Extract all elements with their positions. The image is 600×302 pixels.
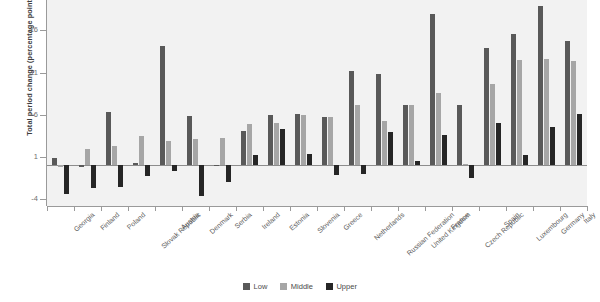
bar-low bbox=[349, 71, 354, 166]
y-axis-tick bbox=[40, 199, 46, 200]
bar-middle bbox=[517, 60, 522, 166]
x-axis-tick bbox=[452, 206, 453, 211]
x-axis-tick-label: Austria bbox=[179, 211, 200, 231]
bar-low bbox=[187, 116, 192, 166]
x-axis-tick-label: Finland bbox=[98, 211, 120, 232]
legend-label: Middle bbox=[291, 283, 313, 291]
x-axis-tick bbox=[587, 206, 588, 211]
x-axis-tick bbox=[155, 206, 156, 211]
chart-figure: -4161116 Total period change (percentage… bbox=[0, 0, 600, 302]
bar-low bbox=[241, 131, 246, 166]
bar-upper bbox=[388, 132, 393, 166]
y-axis-tick bbox=[40, 115, 46, 116]
bar-middle bbox=[274, 123, 279, 165]
bar-upper bbox=[523, 155, 528, 165]
x-axis-tick bbox=[47, 206, 48, 211]
x-axis-tick-label: Georgia bbox=[72, 211, 95, 233]
x-axis-tick-label: Poland bbox=[125, 211, 146, 231]
bar-middle bbox=[139, 136, 144, 166]
legend-label: Low bbox=[254, 283, 268, 291]
bar-upper bbox=[145, 165, 150, 176]
x-axis-tick bbox=[371, 206, 372, 211]
bar-low bbox=[52, 158, 57, 166]
bar-low bbox=[565, 41, 570, 165]
bar-middle bbox=[166, 141, 171, 165]
bar-upper bbox=[334, 165, 339, 174]
bar-middle bbox=[58, 165, 63, 166]
x-axis-tick bbox=[209, 206, 210, 211]
bar-middle bbox=[490, 84, 495, 165]
x-axis-tick bbox=[533, 206, 534, 211]
x-axis-tick bbox=[344, 206, 345, 211]
bar-middle bbox=[355, 105, 360, 166]
bar-low bbox=[511, 34, 516, 166]
bar-low bbox=[430, 14, 435, 165]
bar-low bbox=[457, 105, 462, 166]
x-axis-tick bbox=[317, 206, 318, 211]
bar-middle bbox=[301, 115, 306, 166]
bar-upper bbox=[496, 123, 501, 165]
bar-upper bbox=[361, 165, 366, 173]
bar-low bbox=[214, 165, 219, 166]
x-axis-tick-label: Slovenia bbox=[315, 211, 340, 234]
bar-middle bbox=[544, 59, 549, 165]
x-axis-tick bbox=[425, 206, 426, 211]
x-axis-tick bbox=[398, 206, 399, 211]
bar-upper bbox=[64, 165, 69, 194]
x-axis-tick-label: Netherlands bbox=[372, 211, 405, 241]
bar-upper bbox=[118, 165, 123, 187]
bar-upper bbox=[253, 155, 258, 166]
plot-area bbox=[47, 22, 587, 206]
x-axis-tick bbox=[290, 206, 291, 211]
bar-upper bbox=[199, 165, 204, 195]
bar-upper bbox=[280, 129, 285, 165]
bar-upper bbox=[226, 165, 231, 181]
bar-middle bbox=[85, 149, 90, 165]
bar-low bbox=[538, 6, 543, 166]
x-axis-tick bbox=[128, 206, 129, 211]
x-axis-tick bbox=[560, 206, 561, 211]
bar-middle bbox=[328, 117, 333, 166]
bar-low bbox=[403, 105, 408, 166]
bar-upper bbox=[307, 154, 312, 166]
x-axis-tick bbox=[236, 206, 237, 211]
x-axis-tick-label: Ireland bbox=[260, 211, 281, 231]
bar-low bbox=[376, 74, 381, 165]
bar-upper bbox=[91, 165, 96, 188]
bar-upper bbox=[172, 165, 177, 171]
y-axis-title: Total period change (percentage points) bbox=[25, 0, 34, 160]
legend-swatch-icon bbox=[243, 283, 250, 290]
bar-low bbox=[295, 114, 300, 166]
plot-background-overflow bbox=[47, 0, 587, 22]
bar-middle bbox=[193, 139, 198, 165]
x-axis-tick bbox=[506, 206, 507, 211]
y-axis-tick bbox=[40, 157, 46, 158]
y-axis-tick bbox=[40, 73, 46, 74]
legend-swatch-icon bbox=[326, 283, 333, 290]
x-axis-tick bbox=[182, 206, 183, 211]
legend-item[interactable]: Upper bbox=[326, 283, 357, 291]
x-axis-tick-label: Estonia bbox=[287, 211, 309, 232]
bar-middle bbox=[220, 138, 225, 166]
x-axis-tick bbox=[74, 206, 75, 211]
bar-upper bbox=[442, 135, 447, 165]
bar-middle bbox=[382, 121, 387, 166]
legend-swatch-icon bbox=[280, 283, 287, 290]
bar-low bbox=[79, 165, 84, 167]
x-axis-tick-label: Greece bbox=[341, 211, 363, 232]
y-axis-line bbox=[46, 0, 47, 206]
bar-middle bbox=[436, 93, 441, 166]
legend-item[interactable]: Middle bbox=[280, 283, 313, 291]
legend-label: Upper bbox=[336, 283, 356, 291]
bar-low bbox=[133, 163, 138, 166]
bar-middle bbox=[571, 61, 576, 166]
bar-upper bbox=[550, 127, 555, 166]
chart-legend: LowMiddleUpper bbox=[0, 283, 600, 291]
x-axis-tick-label: Denmark bbox=[208, 211, 234, 235]
legend-item[interactable]: Low bbox=[243, 283, 267, 291]
y-axis-tick-label: -4 bbox=[2, 195, 38, 203]
bar-low bbox=[322, 117, 327, 165]
x-axis-tick-label: Italy bbox=[582, 211, 596, 225]
bar-low bbox=[268, 115, 273, 166]
bar-upper bbox=[469, 165, 474, 178]
